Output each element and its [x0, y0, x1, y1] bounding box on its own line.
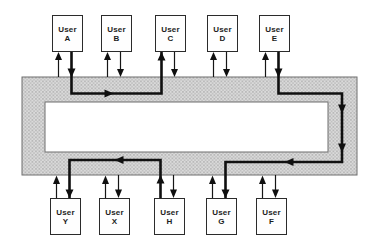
h-to-ring-arrowhead	[157, 175, 165, 184]
tap-arrows-bottom	[53, 175, 279, 198]
ring-to-g-arrowhead	[222, 190, 230, 199]
node-user-a-letter: A	[65, 34, 71, 43]
user-d-receive-arrowhead	[210, 52, 217, 60]
e-to-ring-arrowhead	[275, 69, 283, 78]
node-user-y: User Y	[50, 198, 81, 235]
node-user-b-prefix: User	[107, 25, 126, 34]
ring-network-diagram: User A User B User C User D User E User …	[0, 0, 373, 250]
node-user-f-prefix: User	[262, 208, 281, 217]
node-user-g-prefix: User	[212, 208, 231, 217]
node-user-e-prefix: User	[265, 25, 284, 34]
node-user-a: User A	[52, 15, 83, 52]
node-user-f: User F	[256, 198, 287, 235]
user-h-receive-arrowhead	[170, 190, 177, 199]
node-user-x-prefix: User	[105, 208, 124, 217]
ring-hole	[45, 102, 328, 152]
node-user-h-prefix: User	[160, 208, 179, 217]
node-user-h: User H	[154, 198, 185, 235]
node-user-d-prefix: User	[213, 25, 232, 34]
user-x-send-arrowhead	[102, 176, 109, 185]
ring-to-y-arrowhead	[66, 190, 74, 199]
user-g-send-arrowhead	[209, 176, 216, 185]
node-user-g-letter: G	[218, 217, 224, 226]
node-user-c-letter: C	[168, 34, 174, 43]
node-user-y-prefix: User	[56, 208, 75, 217]
node-user-x-letter: X	[112, 217, 118, 226]
user-c-send-arrowhead	[171, 69, 178, 77]
user-y-send-arrowhead	[53, 176, 60, 185]
node-user-b: User B	[101, 15, 132, 52]
node-user-b-letter: B	[114, 34, 120, 43]
user-e-receive-arrowhead	[262, 52, 269, 60]
node-user-h-letter: H	[167, 217, 173, 226]
node-user-e: User E	[259, 15, 290, 52]
user-f-receive-arrowhead	[272, 190, 279, 199]
node-user-g: User G	[206, 198, 237, 235]
node-user-x: User X	[99, 198, 130, 235]
node-user-c-prefix: User	[161, 25, 180, 34]
user-x-receive-arrowhead	[115, 190, 122, 199]
node-user-y-letter: Y	[63, 217, 69, 226]
node-user-c: User C	[155, 15, 186, 52]
user-b-receive-arrowhead	[104, 52, 111, 60]
user-f-send-arrowhead	[259, 176, 266, 185]
user-b-send-arrowhead	[117, 69, 124, 77]
node-user-f-letter: F	[269, 217, 274, 226]
a-to-ring-arrowhead	[68, 69, 76, 78]
node-user-d-letter: D	[220, 34, 226, 43]
node-user-a-prefix: User	[58, 25, 77, 34]
user-a-receive-arrowhead	[55, 52, 62, 60]
user-d-send-arrowhead	[223, 69, 230, 77]
node-user-e-letter: E	[272, 34, 278, 43]
node-user-d: User D	[207, 15, 238, 52]
ring-to-c-arrowhead	[158, 52, 166, 61]
